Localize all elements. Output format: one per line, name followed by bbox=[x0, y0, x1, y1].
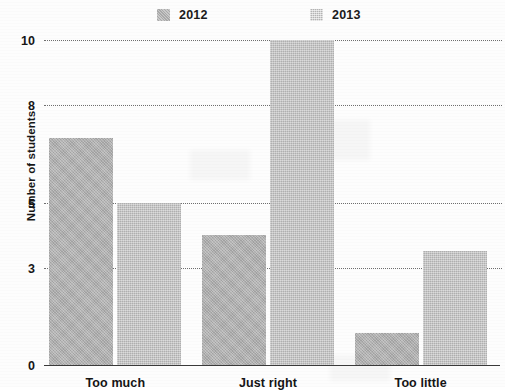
plot-area: 108530Too muchJust rightToo little bbox=[44, 40, 502, 365]
y-axis-title: Number of students bbox=[25, 66, 37, 266]
bar-2012-just-right[interactable] bbox=[202, 235, 266, 365]
x-category-label-too-little: Too little bbox=[395, 377, 447, 390]
bar-2012-too-little[interactable] bbox=[355, 333, 419, 366]
bar-2013-too-much[interactable] bbox=[117, 203, 181, 366]
y-tick-label-3: 3 bbox=[28, 262, 35, 275]
y-tick-label-0: 0 bbox=[28, 360, 35, 373]
y-tick-label-8: 8 bbox=[28, 100, 35, 113]
bar-2012-too-much[interactable] bbox=[49, 138, 113, 366]
y-tick-label-5: 5 bbox=[28, 197, 35, 210]
axis-baseline: 0 bbox=[44, 365, 500, 366]
chart-legend: 2012 2013 bbox=[0, 4, 505, 28]
bar-2013-too-little[interactable] bbox=[423, 251, 487, 365]
bar-2013-just-right[interactable] bbox=[270, 40, 334, 365]
legend-item-2013[interactable]: 2013 bbox=[310, 4, 361, 26]
x-category-label-just-right: Just right bbox=[239, 377, 297, 390]
legend-swatch-2012-icon bbox=[157, 9, 170, 21]
legend-swatch-2013-icon bbox=[310, 9, 323, 21]
legend-label-2012: 2012 bbox=[179, 9, 208, 22]
y-tick-label-10: 10 bbox=[21, 35, 35, 48]
legend-item-2012[interactable]: 2012 bbox=[157, 4, 208, 26]
x-category-label-too-much: Too much bbox=[86, 377, 146, 390]
legend-label-2013: 2013 bbox=[332, 9, 361, 22]
